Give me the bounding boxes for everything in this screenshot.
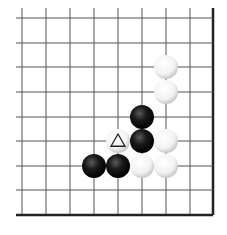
black-stone [130, 129, 154, 153]
white-stone [154, 129, 178, 153]
white-stone [154, 80, 178, 104]
go-board [0, 0, 227, 235]
white-stone [154, 55, 178, 79]
white-stone [130, 154, 154, 178]
black-stone [82, 154, 106, 178]
white-stone [154, 154, 178, 178]
board-grid [16, 8, 213, 215]
white-stone [106, 129, 130, 153]
black-stone [106, 154, 130, 178]
black-stone [130, 105, 154, 129]
